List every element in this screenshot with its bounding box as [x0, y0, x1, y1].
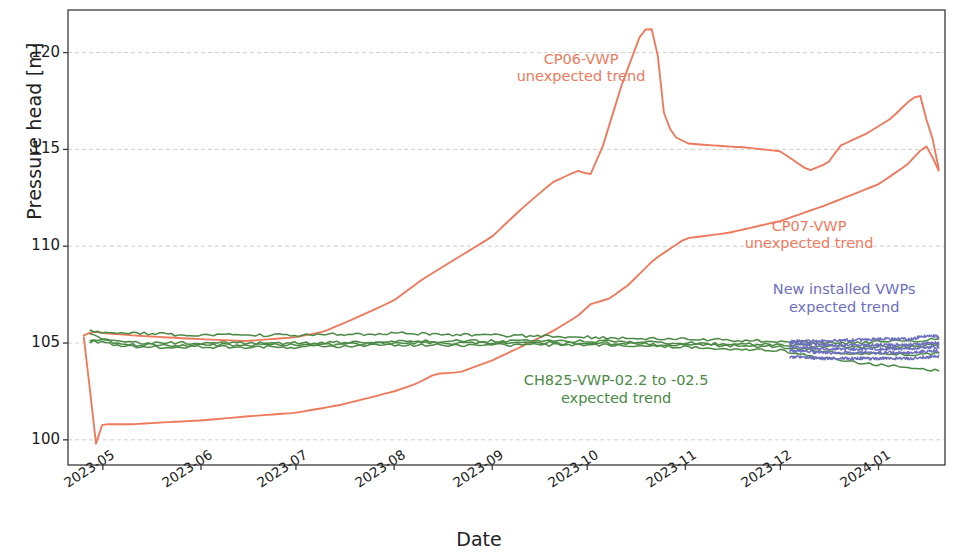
new-vwp-annotation: New installed VWPsexpected trend: [773, 281, 916, 315]
chart-figure: 100105110115120 2023-052023-062023-07202…: [0, 0, 958, 558]
new-vwp-annotation-line1: New installed VWPs: [773, 281, 916, 297]
cp07-annotation-line1: CP07-VWP: [772, 217, 847, 233]
y-axis-title: Pressure head [m]: [23, 1, 45, 261]
cp06-annotation: CP06-VWPunexpected trend: [517, 51, 646, 85]
cp06-annotation-line2: unexpected trend: [517, 68, 646, 85]
ch825-annotation-line2: expected trend: [524, 389, 709, 406]
x-axis-title: Date: [0, 528, 958, 550]
cp07-annotation-line2: unexpected trend: [745, 235, 874, 252]
cp07-annotation: CP07-VWPunexpected trend: [745, 217, 874, 251]
tick-marks: [63, 53, 879, 470]
new-vwp-annotation-line2: expected trend: [773, 298, 916, 315]
y-tick-105: 105: [14, 333, 60, 351]
y-tick-100: 100: [14, 430, 60, 448]
cp06-annotation-line1: CP06-VWP: [544, 51, 619, 67]
ch825-annotation: CH825-VWP-02.2 to -02.5expected trend: [524, 372, 709, 406]
ch825-annotation-line1: CH825-VWP-02.2 to -02.5: [524, 372, 709, 388]
